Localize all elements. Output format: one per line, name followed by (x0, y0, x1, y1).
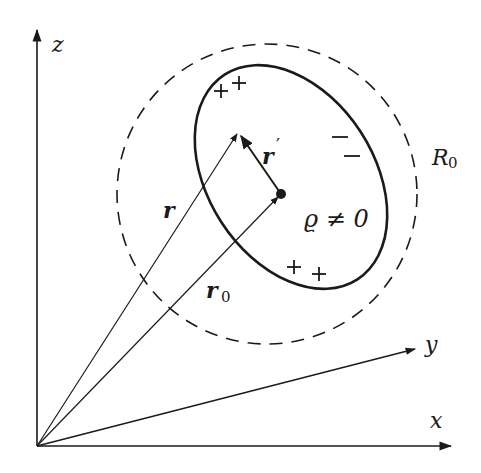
plus-sign (287, 260, 301, 274)
svg-text:r: r (262, 143, 275, 169)
plus-sign (232, 76, 246, 90)
coordinate-axes (37, 30, 451, 446)
x-axis-label: x (430, 408, 443, 433)
svg-text:′: ′ (276, 135, 280, 156)
svg-text:R: R (431, 145, 449, 170)
charge-distribution-diagram: z y x r r 0 r ′ R 0 ϱ ≠ 0 (0, 0, 481, 473)
vector-r0-label: r 0 (206, 277, 231, 306)
reference-point-dot (276, 189, 286, 199)
charge-density-label: ϱ ≠ 0 (304, 205, 369, 233)
charge-signs (214, 76, 360, 281)
vector-r-label: r (163, 197, 176, 223)
vector-r-prime (241, 136, 281, 194)
y-axis (37, 349, 415, 446)
svg-text:r: r (206, 277, 219, 303)
sphere-radius-label: R 0 (431, 145, 458, 172)
z-axis-label: z (51, 32, 64, 57)
vector-r0 (37, 197, 278, 446)
vector-r-prime-label: r ′ (262, 135, 280, 169)
svg-text:0: 0 (448, 154, 458, 172)
plus-sign (214, 84, 228, 98)
y-axis-label: y (424, 332, 438, 357)
plus-sign (312, 267, 326, 281)
svg-text:0: 0 (221, 288, 231, 306)
position-vectors (37, 134, 281, 446)
bounding-sphere-dashed (117, 44, 417, 344)
charge-region-boundary (155, 29, 427, 324)
